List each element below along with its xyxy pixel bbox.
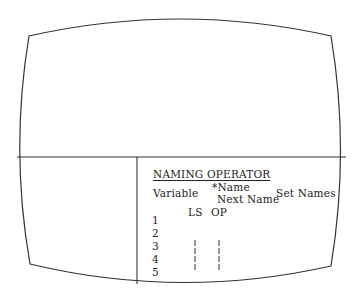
row-number: 5 [152,267,159,278]
op-label: OP [211,207,227,218]
screen-outline [20,19,341,283]
name-header: *Name [212,182,250,193]
panel-title: NAMING OPERATOR [153,169,270,180]
row-number: 3 [152,241,159,252]
row-number: 1 [152,215,159,226]
row-number: 4 [152,254,159,265]
screen-frame [0,0,362,300]
set-names-header: Set Names [276,188,336,199]
row-number: 2 [152,228,159,239]
next-name-header: Next Name [217,194,279,205]
ls-label: LS [188,207,203,218]
variable-header: Variable [153,188,198,199]
